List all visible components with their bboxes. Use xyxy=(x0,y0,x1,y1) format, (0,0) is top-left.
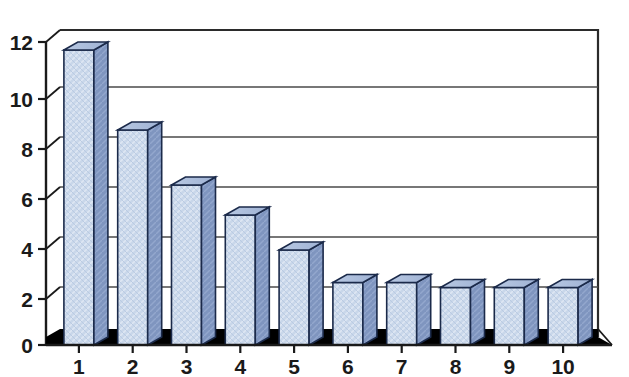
y-tick-label-6: 6 xyxy=(21,188,33,211)
x-tick-label-4: 4 xyxy=(234,355,246,377)
y-tick-label-10: 10 xyxy=(10,88,33,111)
bar-chart: 12 10 8 6 4 2 0 12345678910 xyxy=(0,0,629,377)
x-tick-label-2: 2 xyxy=(127,355,139,377)
x-tick-label-3: 3 xyxy=(181,355,193,377)
x-tick-label-1: 1 xyxy=(73,355,85,377)
bar-column xyxy=(548,280,592,346)
y-tick-label-0: 0 xyxy=(21,334,33,357)
x-tick-label-7: 7 xyxy=(396,355,408,377)
x-tick-label-9: 9 xyxy=(503,355,515,377)
y-tick-label-8: 8 xyxy=(21,138,33,161)
x-tick-label-8: 8 xyxy=(450,355,462,377)
x-tick-label-10: 10 xyxy=(551,355,574,377)
bar-column xyxy=(387,275,431,346)
y-tick-label-4: 4 xyxy=(21,238,33,261)
bar-column xyxy=(494,280,538,346)
bar-column xyxy=(225,207,269,345)
bar-column xyxy=(172,177,216,345)
y-tick-label-2: 2 xyxy=(21,288,33,311)
x-tick-label-6: 6 xyxy=(342,355,354,377)
bar-column xyxy=(279,242,323,345)
bar-column xyxy=(441,280,485,346)
bar-column xyxy=(64,42,108,345)
y-tick-label-12: 12 xyxy=(10,31,33,54)
x-tick-label-5: 5 xyxy=(288,355,300,377)
bar-column xyxy=(118,122,162,345)
bar-column xyxy=(333,275,377,346)
chart-canvas: 12 10 8 6 4 2 0 12345678910 xyxy=(0,0,629,377)
